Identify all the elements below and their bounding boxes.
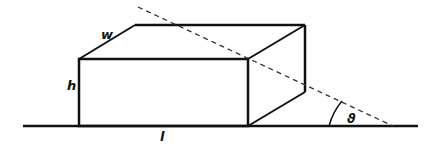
width-label: w	[101, 27, 114, 42]
box-bottom-right-edge	[248, 92, 305, 126]
box-front-face	[79, 59, 248, 126]
angle-arc	[329, 101, 342, 126]
length-label: l	[160, 129, 165, 144]
box-angle-diagram: w h l ϑ	[0, 0, 434, 147]
height-label: h	[67, 78, 76, 93]
angle-label: ϑ	[347, 111, 356, 126]
box-top-right-edge	[248, 25, 305, 59]
